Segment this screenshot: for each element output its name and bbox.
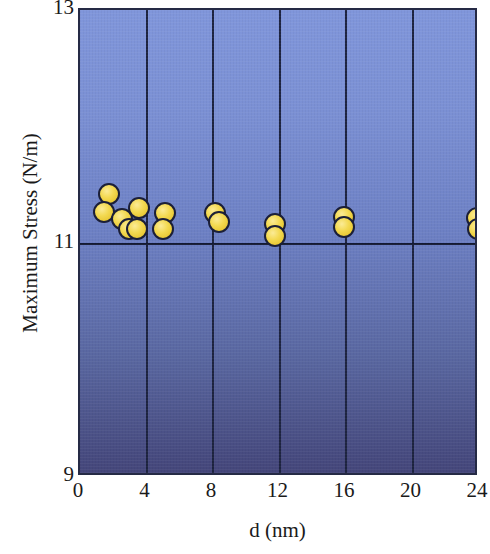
- x-axis-tick-label: 20: [389, 480, 433, 501]
- data-point: [126, 218, 148, 240]
- x-axis-tick-label: 0: [56, 480, 100, 501]
- data-point: [467, 218, 477, 240]
- y-axis-title-text: Maximum Stress (N/m): [19, 133, 41, 333]
- x-axis-tick-label: 8: [189, 480, 233, 501]
- scatter-chart-figure: 13 11 9 Maximum Stress (N/m) 04812162024…: [0, 0, 490, 554]
- data-point: [333, 216, 355, 238]
- x-axis-tick-label: 4: [123, 480, 167, 501]
- x-axis-title: d (nm): [78, 519, 477, 541]
- x-axis-tick-label: 24: [455, 480, 490, 501]
- data-point: [208, 211, 230, 233]
- vertical-gridline: [345, 10, 347, 473]
- plot-area: [78, 8, 477, 475]
- data-point: [152, 218, 174, 240]
- x-axis-tick-label: 16: [322, 480, 366, 501]
- vertical-gridline: [146, 10, 148, 473]
- vertical-gridline: [212, 10, 214, 473]
- data-point: [264, 225, 286, 247]
- x-axis-tick-label: 12: [256, 480, 300, 501]
- vertical-gridline: [412, 10, 414, 473]
- y-axis-tick-label: 13: [0, 0, 74, 18]
